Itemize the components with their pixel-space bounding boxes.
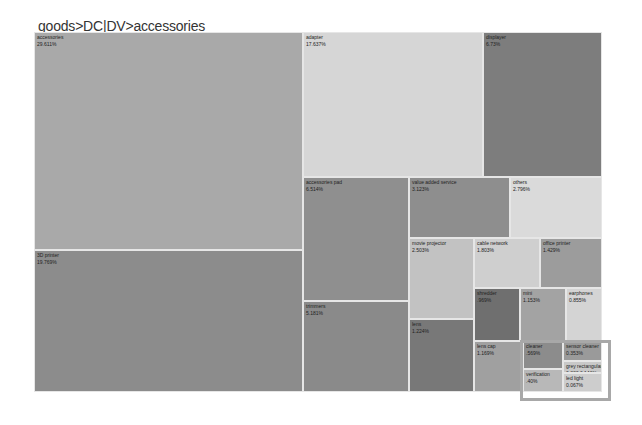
cell-percentage: 19.769% [37, 259, 57, 265]
treemap-cell[interactable]: office printer1.429% [540, 238, 602, 288]
cell-name: value added service [412, 179, 456, 185]
treemap-cell[interactable]: earphones0.855% [566, 288, 602, 341]
cell-name: 3D printer [37, 252, 59, 258]
treemap-cell[interactable]: cable network1.803% [474, 238, 540, 288]
selection-highlight [520, 340, 611, 401]
cell-percentage: 1.429% [543, 247, 560, 253]
cell-name: shredder [477, 290, 497, 296]
cell-name: earphones [569, 290, 593, 296]
cell-percentage: 3.123% [412, 186, 429, 192]
cell-name: trimmers [306, 303, 325, 309]
cell-percentage: 6.73% [486, 41, 500, 47]
treemap-cell[interactable]: accessories29.611% [34, 32, 303, 250]
cell-percentage: 1.169% [477, 350, 494, 356]
cell-name: adapter [306, 34, 323, 40]
cell-percentage: 0.855% [569, 297, 586, 303]
cell-percentage: 2.503% [412, 247, 429, 253]
cell-name: accessories [37, 34, 63, 40]
cell-name: accessories pad [306, 179, 342, 185]
cell-percentage: 1.153% [523, 297, 540, 303]
treemap-cell[interactable]: trimmers5.181% [303, 301, 409, 392]
treemap-cell[interactable]: movie projector2.503% [409, 238, 474, 319]
cell-name: cable network [477, 240, 508, 246]
cell-name: movie projector [412, 240, 446, 246]
cell-percentage: 29.611% [37, 41, 56, 47]
cell-percentage: 2.796% [513, 186, 530, 192]
cell-name: lens [412, 321, 421, 327]
treemap-cell[interactable]: lens1.224% [409, 319, 474, 392]
treemap-cell[interactable]: accessories pad6.514% [303, 177, 409, 301]
treemap-cell[interactable]: 3D printer19.769% [34, 250, 303, 392]
cell-percentage: 1.803% [477, 247, 494, 253]
treemap: accessories29.611%3D printer19.769%adapt… [34, 32, 602, 392]
treemap-cell[interactable]: mini1.153% [520, 288, 566, 341]
cell-percentage: 17.637% [306, 41, 326, 47]
cell-percentage: 5.181% [306, 310, 323, 316]
treemap-cell[interactable]: value added service3.123% [409, 177, 510, 238]
cell-name: displayer [486, 34, 506, 40]
cell-name: mini [523, 290, 532, 296]
cell-percentage: 6.514% [306, 186, 323, 192]
cell-name: office printer [543, 240, 570, 246]
treemap-cell[interactable]: displayer6.73% [483, 32, 602, 177]
treemap-cell[interactable]: shredder.969% [474, 288, 520, 341]
cell-name: lens cap [477, 343, 496, 349]
cell-percentage: .969% [477, 297, 491, 303]
treemap-cell[interactable]: others2.796% [510, 177, 602, 238]
cell-percentage: 1.224% [412, 328, 429, 334]
cell-name: others [513, 179, 527, 185]
treemap-cell[interactable]: lens cap1.169% [474, 341, 523, 392]
treemap-cell[interactable]: adapter17.637% [303, 32, 483, 177]
